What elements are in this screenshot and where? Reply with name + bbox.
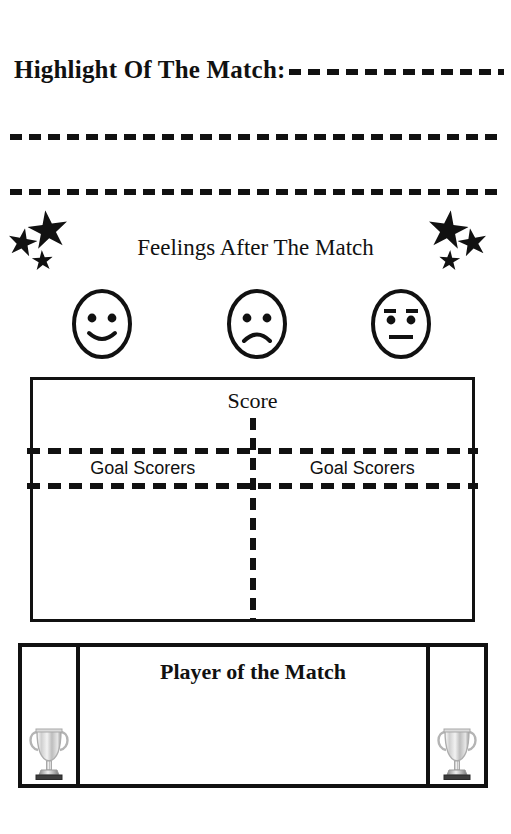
player-of-the-match-write-area[interactable]: Player of the Match	[80, 647, 426, 784]
sad-face-option[interactable]	[223, 288, 291, 360]
goal-scorers-header-away: Goal Scorers	[253, 452, 473, 484]
score-table: Score Goal Scorers Goal Scorers	[30, 377, 475, 622]
trophy-icon	[26, 714, 72, 782]
worksheet-page: Highlight Of The Match: Feelings After T…	[0, 0, 511, 834]
neutral-face-icon	[367, 288, 435, 360]
happy-face-option[interactable]	[68, 288, 136, 360]
happy-face-icon	[68, 288, 136, 360]
player-of-the-match-title: Player of the Match	[80, 661, 426, 683]
feelings-heading: Feelings After The Match	[0, 236, 511, 259]
score-title: Score	[33, 390, 472, 412]
feelings-face-row	[40, 288, 470, 360]
highlight-writing-line-2[interactable]	[10, 134, 502, 140]
goal-scorers-header-row: Goal Scorers Goal Scorers	[33, 452, 472, 484]
highlight-heading-row: Highlight Of The Match:	[14, 52, 504, 86]
player-of-the-match-box: Player of the Match	[18, 643, 488, 788]
sad-face-icon	[223, 288, 291, 360]
neutral-face-option[interactable]	[367, 288, 435, 360]
trophy-cell-left	[22, 647, 80, 784]
highlight-writing-line-3[interactable]	[10, 189, 502, 195]
highlight-label: Highlight Of The Match:	[14, 57, 286, 82]
trophy-cell-right	[426, 647, 484, 784]
highlight-writing-line-1[interactable]	[289, 69, 504, 75]
trophy-icon	[434, 714, 480, 782]
goal-scorers-header-home: Goal Scorers	[33, 452, 253, 484]
